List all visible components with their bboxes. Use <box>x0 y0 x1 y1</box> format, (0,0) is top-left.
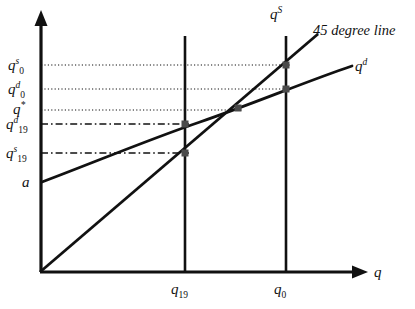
x-tick-label-q0: q0 <box>274 281 286 297</box>
y-tick-label-qd0: qd0 <box>8 81 25 97</box>
supply-curve-label: qS <box>270 6 282 22</box>
diagram-canvas <box>0 0 415 309</box>
marker-qd0 <box>283 86 290 93</box>
x-tick-label-q19: q19 <box>171 281 188 297</box>
demand-intercept-label-a: a <box>22 174 30 190</box>
marker-equilibrium <box>235 105 242 112</box>
y-tick-label-qd19: qd19 <box>6 116 28 132</box>
demand-curve-label: qd <box>355 58 367 74</box>
x-axis <box>40 266 368 279</box>
supply-demand-diagram: qs0 qd0 q* qd19 qs19 a q19 q0 qS qd 45 d… <box>0 0 415 309</box>
marker-qs19 <box>182 150 189 157</box>
intersection-markers <box>182 62 290 157</box>
y-axis <box>35 10 48 272</box>
guide-lines-dashdot <box>41 124 189 153</box>
y-tick-label-qs0: qs0 <box>8 57 24 73</box>
marker-qs0 <box>283 62 290 69</box>
forty-five-degree-line-label: 45 degree line <box>313 22 395 39</box>
marker-qd19 <box>182 121 189 128</box>
y-tick-label-qs19: qs19 <box>6 145 27 161</box>
x-axis-name: q <box>374 264 382 280</box>
